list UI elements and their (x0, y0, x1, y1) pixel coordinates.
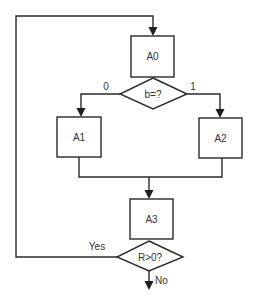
node-a1-label: A1 (73, 132, 86, 143)
edge-label-0: 0 (103, 81, 109, 92)
edge-label-yes: Yes (89, 241, 105, 252)
edge-label-1: 1 (190, 81, 196, 92)
arrowhead-into-a1 (77, 108, 86, 117)
edge-b-to-a1 (81, 94, 120, 109)
flowchart: A0 b=? 0 1 A1 A2 A3 R>0? Yes No (0, 0, 256, 308)
arrowhead-into-a2 (216, 109, 225, 118)
edge-a2-to-join (149, 158, 222, 177)
arrowhead-into-a3 (145, 190, 154, 199)
arrowhead-into-a0 (149, 27, 158, 36)
node-a3-label: A3 (145, 214, 158, 225)
node-decision-r-label: R>0? (138, 252, 163, 263)
node-decision-b-label: b=? (145, 89, 162, 100)
edge-b-to-a2 (187, 94, 220, 110)
node-a0-label: A0 (146, 51, 159, 62)
arrowhead-exit (145, 281, 154, 290)
node-a2-label: A2 (214, 133, 227, 144)
edge-a1-to-join (79, 157, 149, 177)
edge-label-no: No (155, 275, 168, 286)
